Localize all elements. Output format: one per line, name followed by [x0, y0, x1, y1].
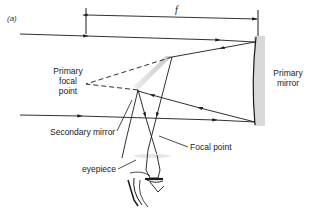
focal-point-label: Focal point — [190, 142, 232, 152]
reflected-ray-bottom — [138, 91, 255, 122]
focal-length-label: f — [175, 4, 178, 15]
panel-label: (a) — [7, 14, 17, 23]
secondary-mirror-label: Secondary mirror — [50, 127, 115, 137]
dashed-extension-lines — [86, 57, 172, 90]
telescope-diagram — [0, 0, 310, 221]
primary-mirror — [253, 36, 265, 126]
label-line: Primary — [268, 68, 308, 78]
eyepiece-label: eyepiece — [82, 164, 116, 174]
focal-length-dimension — [86, 8, 258, 36]
incoming-ray-bottom — [20, 115, 255, 122]
eyepiece — [134, 150, 170, 179]
label-line: focal — [50, 76, 86, 86]
primary-focal-point-label: Primary focal point — [50, 66, 86, 96]
reflected-ray-top — [172, 42, 255, 57]
incoming-ray-top — [20, 34, 255, 42]
label-line: mirror — [268, 78, 308, 88]
converging-rays — [122, 57, 172, 158]
label-line: point — [50, 86, 86, 96]
secondary-mirror — [134, 56, 172, 90]
primary-mirror-label: Primary mirror — [268, 68, 308, 88]
label-line: Primary — [50, 66, 86, 76]
